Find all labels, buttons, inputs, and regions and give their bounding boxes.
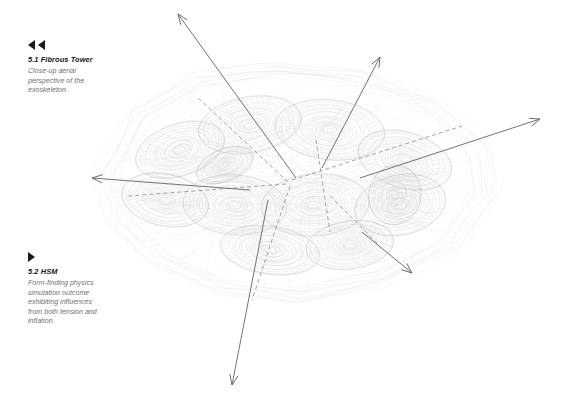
caption-body-line: from both tension and bbox=[28, 307, 132, 317]
arrowhead-icon bbox=[372, 57, 380, 68]
mesh-envelope bbox=[91, 63, 499, 305]
left-triangle-icon bbox=[28, 40, 35, 50]
caption-body-line: Close-up aerial bbox=[28, 66, 132, 76]
caption-body-line: perspective of the bbox=[28, 76, 132, 86]
axis-up-left bbox=[178, 14, 296, 178]
caption-fibrous-tower: 5.1 Fibrous Tower Close-up aerial perspe… bbox=[28, 38, 132, 95]
caption-body-line: Form-finding physics bbox=[28, 278, 132, 288]
caption-body-line: exhibiting influences bbox=[28, 297, 132, 307]
page-root: 5.1 Fibrous Tower Close-up aerial perspe… bbox=[0, 0, 569, 408]
caption-title: 5.2 HSM bbox=[28, 267, 132, 277]
caption-marker-fibrous-tower bbox=[28, 38, 132, 51]
right-triangle-icon bbox=[28, 252, 35, 262]
mesh-group bbox=[91, 63, 499, 305]
caption-body: Form-finding physics simulation outcome … bbox=[28, 278, 132, 326]
caption-body-line: exoskeleton. bbox=[28, 85, 132, 95]
left-triangle-icon bbox=[38, 40, 45, 50]
caption-body-line: inflation. bbox=[28, 316, 132, 326]
caption-marker-hsm bbox=[28, 250, 132, 263]
caption-body: Close-up aerial perspective of the exosk… bbox=[28, 66, 132, 95]
caption-hsm: 5.2 HSM Form-finding physics simulation … bbox=[28, 250, 132, 326]
caption-body-line: simulation outcome bbox=[28, 288, 132, 298]
caption-title: 5.1 Fibrous Tower bbox=[28, 55, 132, 65]
